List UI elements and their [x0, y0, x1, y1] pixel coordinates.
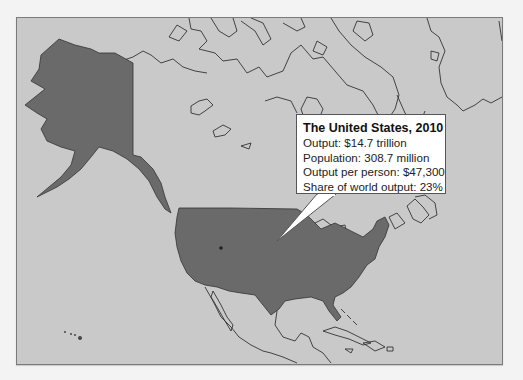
callout-title: The United States, 2010 — [303, 121, 445, 136]
newfoundland — [415, 195, 437, 219]
callout-world-share: Share of world output: 23% — [303, 180, 445, 195]
hispaniola — [363, 341, 385, 351]
callout-population: Population: 308.7 million — [303, 151, 445, 166]
arctic-coastline — [189, 18, 399, 121]
callout-output: Output: $14.7 trillion — [303, 136, 445, 151]
country-info-callout: The United States, 2010 Output: $14.7 tr… — [296, 114, 446, 194]
cuba — [323, 327, 371, 345]
alaska — [25, 39, 171, 213]
callout-output-per-person: Output per person: $47,300 — [303, 165, 445, 180]
hawaii — [64, 331, 82, 340]
greenland-coastline — [427, 18, 502, 111]
continental-us — [175, 208, 389, 321]
